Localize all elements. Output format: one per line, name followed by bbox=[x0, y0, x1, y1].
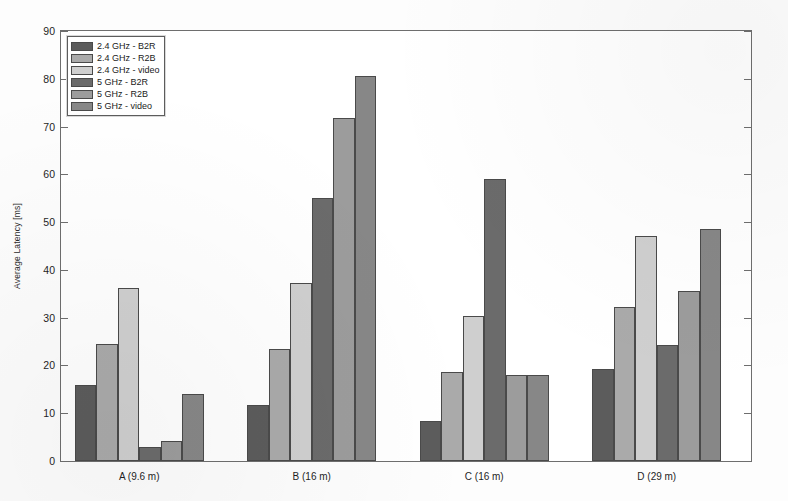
bar bbox=[247, 405, 269, 461]
y-tick-label: 40 bbox=[11, 264, 55, 276]
y-tick-label: 20 bbox=[11, 359, 55, 371]
bar bbox=[463, 316, 485, 461]
y-tick-mark-right bbox=[744, 31, 751, 32]
y-tick-mark bbox=[61, 222, 68, 223]
y-tick-mark-right bbox=[744, 318, 751, 319]
legend-label: 2.4 GHz - B2R bbox=[97, 41, 156, 52]
y-tick-label: 90 bbox=[11, 25, 55, 37]
y-tick-label: 80 bbox=[11, 73, 55, 85]
legend-label: 5 GHz - video bbox=[97, 101, 152, 112]
bar bbox=[269, 349, 291, 461]
y-tick-mark-right bbox=[744, 127, 751, 128]
legend-item: 2.4 GHz - R2B bbox=[71, 52, 160, 64]
legend-label: 5 GHz - R2B bbox=[97, 89, 148, 100]
bar bbox=[657, 345, 679, 461]
y-tick-mark bbox=[61, 461, 68, 462]
y-tick-mark-right bbox=[744, 413, 751, 414]
figure-canvas: Average Latency [ms] 9080706050403020100… bbox=[0, 0, 788, 501]
bar bbox=[441, 372, 463, 461]
legend-swatch bbox=[71, 78, 93, 87]
bar bbox=[312, 198, 334, 461]
x-tick-label: C (16 m) bbox=[465, 471, 504, 482]
bar bbox=[290, 283, 312, 461]
legend-label: 2.4 GHz - R2B bbox=[97, 53, 156, 64]
legend-swatch bbox=[71, 66, 93, 75]
x-tick-label: A (9.6 m) bbox=[119, 471, 160, 482]
y-tick-label: 10 bbox=[11, 407, 55, 419]
bar bbox=[96, 344, 118, 461]
bar bbox=[614, 307, 636, 461]
bar bbox=[700, 229, 722, 461]
y-tick-label: 30 bbox=[11, 312, 55, 324]
bar bbox=[420, 421, 442, 461]
y-tick-label: 0 bbox=[11, 455, 55, 467]
chart-legend: 2.4 GHz - B2R2.4 GHz - R2B2.4 GHz - vide… bbox=[67, 36, 165, 116]
legend-rows: 2.4 GHz - B2R2.4 GHz - R2B2.4 GHz - vide… bbox=[71, 40, 160, 112]
bar bbox=[355, 76, 377, 461]
x-tick-label: B (16 m) bbox=[293, 471, 331, 482]
legend-item: 5 GHz - R2B bbox=[71, 88, 160, 100]
legend-swatch bbox=[71, 54, 93, 63]
y-tick-mark-right bbox=[744, 365, 751, 366]
bar bbox=[592, 369, 614, 461]
bar bbox=[75, 385, 97, 461]
y-tick-label: 60 bbox=[11, 168, 55, 180]
legend-swatch bbox=[71, 42, 93, 51]
y-tick-mark-right bbox=[744, 174, 751, 175]
y-tick-mark bbox=[61, 270, 68, 271]
y-tick-label: 70 bbox=[11, 121, 55, 133]
bar bbox=[506, 375, 528, 461]
y-tick-mark bbox=[61, 127, 68, 128]
y-tick-mark bbox=[61, 174, 68, 175]
legend-swatch bbox=[71, 90, 93, 99]
bar bbox=[161, 441, 183, 461]
legend-label: 5 GHz - B2R bbox=[97, 77, 148, 88]
bar bbox=[678, 291, 700, 461]
bar bbox=[333, 118, 355, 461]
y-tick-mark bbox=[61, 413, 68, 414]
y-tick-mark-right bbox=[744, 461, 751, 462]
bar bbox=[139, 447, 161, 461]
bar bbox=[118, 288, 140, 461]
bar bbox=[182, 394, 204, 461]
y-tick-label: 50 bbox=[11, 216, 55, 228]
y-tick-mark bbox=[61, 318, 68, 319]
bar bbox=[484, 179, 506, 461]
plot-area: Average Latency [ms] 9080706050403020100… bbox=[60, 30, 752, 462]
bar bbox=[635, 236, 657, 461]
legend-label: 2.4 GHz - video bbox=[97, 65, 160, 76]
legend-item: 2.4 GHz - video bbox=[71, 64, 160, 76]
y-tick-mark bbox=[61, 365, 68, 366]
x-tick-label: D (29 m) bbox=[637, 471, 676, 482]
legend-swatch bbox=[71, 102, 93, 111]
y-tick-mark bbox=[61, 31, 68, 32]
y-tick-mark-right bbox=[744, 270, 751, 271]
legend-item: 5 GHz - video bbox=[71, 100, 160, 112]
legend-item: 5 GHz - B2R bbox=[71, 76, 160, 88]
bar bbox=[527, 375, 549, 461]
y-tick-mark-right bbox=[744, 79, 751, 80]
legend-item: 2.4 GHz - B2R bbox=[71, 40, 160, 52]
y-tick-mark-right bbox=[744, 222, 751, 223]
